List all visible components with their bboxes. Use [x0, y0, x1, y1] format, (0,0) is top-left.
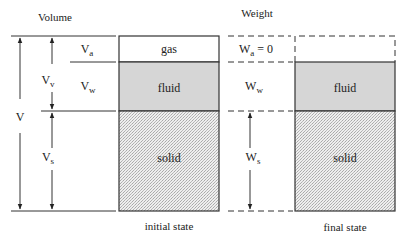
- final-state-caption: final state: [323, 221, 366, 233]
- phase-diagram: Volume Weight V Vv Vs Va Vw gas fluid so…: [0, 0, 403, 239]
- gas-label: gas: [161, 42, 177, 56]
- volume-header: Volume: [38, 11, 72, 23]
- Ww-label: Ww: [245, 79, 263, 95]
- solid-label-initial: solid: [157, 151, 180, 165]
- solid-label-final: solid: [333, 151, 356, 165]
- V-label: V: [16, 110, 25, 124]
- final-state-box: fluid solid: [295, 36, 395, 211]
- Vs-label: Vs: [42, 150, 55, 166]
- Vv-label: Vv: [41, 73, 55, 89]
- fluid-label-initial: fluid: [158, 81, 181, 95]
- Ws-label: Ws: [246, 150, 261, 166]
- empty-gas-region-final: [295, 36, 395, 62]
- Va-label: Va: [81, 42, 94, 58]
- weight-header: Weight: [241, 7, 273, 19]
- fluid-label-final: fluid: [334, 81, 357, 95]
- initial-state-box: gas fluid solid: [119, 36, 219, 211]
- weight-reference-lines: [228, 36, 293, 211]
- Vw-label: Vw: [80, 79, 96, 95]
- Wa-label: Wa = 0: [239, 42, 273, 58]
- initial-state-caption: initial state: [145, 220, 194, 232]
